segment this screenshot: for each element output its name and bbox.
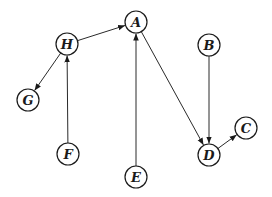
node-label: A	[129, 15, 141, 30]
node-label: F	[62, 147, 73, 162]
node-e: E	[125, 166, 147, 188]
node-h: H	[56, 33, 78, 55]
arrow-icon	[35, 53, 61, 91]
arrow-icon	[141, 32, 203, 145]
node-label: H	[60, 37, 74, 52]
node-label: D	[202, 148, 215, 163]
node-a: A	[125, 11, 147, 33]
node-c: C	[235, 117, 257, 139]
node-label: C	[241, 121, 252, 136]
arrow-icon	[67, 55, 68, 143]
node-label: G	[22, 93, 33, 108]
edge-d-to-c	[218, 135, 237, 149]
arrow-icon	[77, 25, 125, 40]
nodes-layer: ABCDEFGH	[17, 11, 257, 188]
arrow-icon	[218, 135, 237, 149]
directed-graph: ABCDEFGH	[0, 0, 272, 197]
edge-h-to-g	[35, 53, 61, 91]
edge-f-to-h	[67, 55, 68, 143]
node-f: F	[57, 143, 79, 165]
edge-a-to-d	[141, 32, 203, 145]
edge-h-to-a	[77, 25, 125, 40]
node-label: B	[203, 38, 215, 53]
node-b: B	[198, 34, 220, 56]
node-g: G	[17, 89, 39, 111]
node-d: D	[198, 144, 220, 166]
node-label: E	[130, 170, 142, 185]
